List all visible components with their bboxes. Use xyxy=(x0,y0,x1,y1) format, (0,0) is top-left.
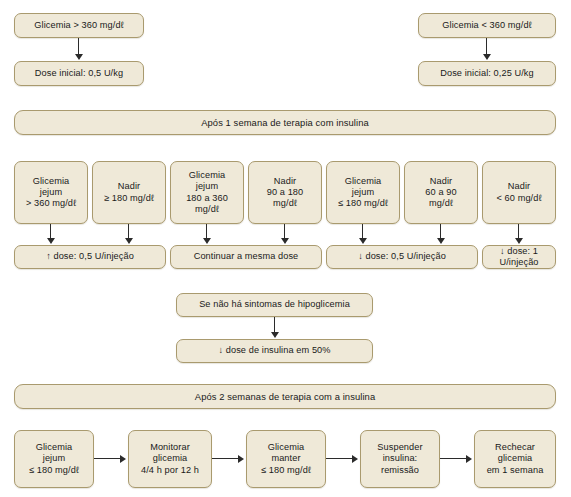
connector-sequence-1-2 xyxy=(94,458,120,459)
condition-text-7: Nadir < 60 mg/dℓ xyxy=(486,181,552,203)
top-left-action-box: Dose inicial: 0,5 U/kg xyxy=(14,61,144,86)
top-right-condition-box: Glicemia < 360 mg/dℓ xyxy=(418,13,556,38)
condition-box-2: Nadir ≥ 180 mg/dℓ xyxy=(92,161,166,224)
sequence-text-2: Monitorar glicemia 4/4 h por 12 h xyxy=(132,442,208,476)
condition-text-3: Glicemia jejum 180 a 360 mg/dℓ xyxy=(174,170,240,215)
arrowhead-condition-6 xyxy=(437,238,445,244)
sequence-box-2: Monitorar glicemia 4/4 h por 12 h xyxy=(128,430,212,488)
action-text-3: ↓ dose: 0,5 U/injeção xyxy=(330,251,474,262)
banner-week1: Após 1 semana de terapia com insulina xyxy=(14,110,556,135)
banner-week1-text: Após 1 semana de terapia com insulina xyxy=(18,117,552,128)
arrowhead-condition-7 xyxy=(515,238,523,244)
sequence-box-1: Glicemia jejum ≤ 180 mg/dℓ xyxy=(14,430,94,488)
condition-box-1: Glicemia jejum > 360 mg/dℓ xyxy=(14,161,88,224)
arrowhead-condition-2 xyxy=(125,238,133,244)
condition-box-5: Glicemia jejum ≤ 180 mg/dℓ xyxy=(326,161,400,224)
hypo-action-box: ↓ dose de insulina em 50% xyxy=(176,339,373,363)
arrowhead-sequence-2-3 xyxy=(238,455,244,463)
hypo-condition-box: Se não há sintomas de hipoglicemia xyxy=(176,293,373,317)
connector-sequence-2-3 xyxy=(212,458,238,459)
sequence-text-4: Suspender insulina: remissão xyxy=(364,442,436,476)
arrowhead-sequence-4-5 xyxy=(466,455,472,463)
top-right-action-box: Dose inicial: 0,25 U/kg xyxy=(418,61,556,86)
condition-text-6: Nadir 60 a 90 mg/dℓ xyxy=(408,176,474,210)
condition-text-4: Nadir 90 a 180 mg/dℓ xyxy=(252,176,318,210)
top-right-action-text: Dose inicial: 0,25 U/kg xyxy=(422,68,552,79)
condition-text-2: Nadir ≥ 180 mg/dℓ xyxy=(96,181,162,203)
banner-week2-text: Após 2 semanas de terapia com a insulina xyxy=(18,391,552,402)
condition-box-7: Nadir < 60 mg/dℓ xyxy=(482,161,556,224)
arrowhead-sequence-1-2 xyxy=(120,455,126,463)
top-right-condition-text: Glicemia < 360 mg/dℓ xyxy=(422,20,552,31)
hypo-condition-text: Se não há sintomas de hipoglicemia xyxy=(180,299,369,310)
action-box-2: Continuar a mesma dose xyxy=(170,245,322,269)
condition-box-3: Glicemia jejum 180 a 360 mg/dℓ xyxy=(170,161,244,224)
sequence-text-5: Rechecar glicemia em 1 semana xyxy=(478,442,552,476)
top-left-condition-box: Glicemia > 360 mg/dℓ xyxy=(14,13,144,38)
arrowhead-top-right xyxy=(483,54,491,60)
condition-text-1: Glicemia jejum > 360 mg/dℓ xyxy=(18,176,84,210)
connector-sequence-4-5 xyxy=(440,458,466,459)
condition-box-4: Nadir 90 a 180 mg/dℓ xyxy=(248,161,322,224)
action-box-4: ↓ dose: 1 U/injeção xyxy=(482,245,556,269)
condition-box-6: Nadir 60 a 90 mg/dℓ xyxy=(404,161,478,224)
top-left-condition-text: Glicemia > 360 mg/dℓ xyxy=(18,20,140,31)
arrowhead-condition-4 xyxy=(281,238,289,244)
action-box-3: ↓ dose: 0,5 U/injeção xyxy=(326,245,478,269)
arrowhead-condition-5 xyxy=(359,238,367,244)
arrowhead-sequence-3-4 xyxy=(352,455,358,463)
sequence-box-5: Rechecar glicemia em 1 semana xyxy=(474,430,556,488)
arrowhead-condition-3 xyxy=(203,238,211,244)
insulin-therapy-flowchart: Glicemia > 360 mg/dℓ Dose inicial: 0,5 U… xyxy=(0,0,571,497)
sequence-text-3: Glicemia manter ≤ 180 mg/dℓ xyxy=(250,442,322,476)
connector-sequence-3-4 xyxy=(326,458,352,459)
arrowhead-condition-1 xyxy=(47,238,55,244)
action-box-1: ↑ dose: 0,5 U/injeção xyxy=(14,245,166,269)
sequence-box-3: Glicemia manter ≤ 180 mg/dℓ xyxy=(246,430,326,488)
action-text-1: ↑ dose: 0,5 U/injeção xyxy=(18,251,162,262)
arrowhead-top-left xyxy=(75,54,83,60)
condition-text-5: Glicemia jejum ≤ 180 mg/dℓ xyxy=(330,176,396,210)
sequence-box-4: Suspender insulina: remissão xyxy=(360,430,440,488)
hypo-action-text: ↓ dose de insulina em 50% xyxy=(180,345,369,356)
action-text-4: ↓ dose: 1 U/injeção xyxy=(486,246,552,268)
arrowhead-hypo xyxy=(271,332,279,338)
banner-week2: Após 2 semanas de terapia com a insulina xyxy=(14,384,556,409)
action-text-2: Continuar a mesma dose xyxy=(174,251,318,262)
sequence-text-1: Glicemia jejum ≤ 180 mg/dℓ xyxy=(18,442,90,476)
top-left-action-text: Dose inicial: 0,5 U/kg xyxy=(18,68,140,79)
